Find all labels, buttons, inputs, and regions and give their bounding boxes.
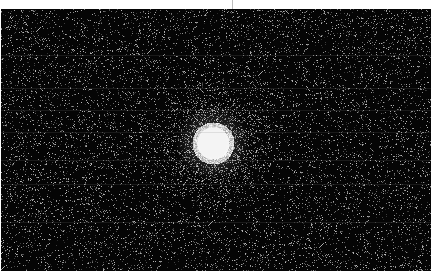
scanline: [1, 132, 431, 133]
scanline: [1, 110, 431, 111]
scanline: [1, 160, 431, 161]
scanline: [1, 88, 431, 89]
marker-line: [232, 0, 233, 9]
scanline: [1, 55, 431, 56]
scanline: [1, 222, 431, 223]
noise-field: [1, 9, 431, 271]
star-field-image: [1, 9, 431, 271]
scanline: [1, 184, 431, 185]
top-margin: [0, 0, 432, 9]
